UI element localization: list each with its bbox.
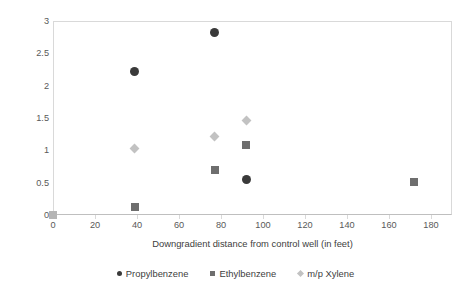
x-tick-label: 120 [290, 219, 320, 231]
y-tick-label: 1.5 [27, 113, 49, 123]
data-point-square [410, 178, 418, 186]
x-tick-label: 80 [206, 219, 236, 231]
legend-square-icon [210, 271, 215, 276]
x-tick-label: 0 [38, 219, 68, 231]
scatter-chart: δ13C difference from control well as ε 0… [0, 0, 471, 297]
legend-item-label: Propylbenzene [126, 268, 189, 279]
y-tick-label: 3 [27, 16, 49, 26]
x-tick-label: 100 [248, 219, 278, 231]
x-tick-label: 180 [416, 219, 446, 231]
y-tick-label: 1 [27, 145, 49, 155]
x-tick-label: 40 [122, 219, 152, 231]
legend-diamond-icon [297, 270, 304, 277]
legend-item[interactable]: Propylbenzene [117, 268, 189, 279]
data-point-circle [242, 175, 251, 184]
x-tick-label: 20 [80, 219, 110, 231]
data-point-square [211, 166, 219, 174]
x-tick-label: 60 [164, 219, 194, 231]
x-tick-label: 140 [332, 219, 362, 231]
data-point-square [242, 141, 250, 149]
x-tick-label: 160 [374, 219, 404, 231]
legend-item-label: Ethylbenzene [219, 268, 276, 279]
legend-item-label: m/p Xylene [307, 268, 354, 279]
x-axis-title: Downgradient distance from control well … [53, 238, 452, 249]
chart-legend: PropylbenzeneEthylbenzenem/p Xylene [0, 268, 471, 279]
x-axis-ticks: 020406080100120140160180 [0, 219, 471, 233]
legend-circle-icon [117, 271, 122, 276]
y-tick-label: 0.5 [27, 178, 49, 188]
y-tick-label: 2 [27, 81, 49, 91]
data-point-square [49, 211, 57, 219]
y-tick-label: 2.5 [27, 48, 49, 58]
plot-area [53, 21, 452, 215]
y-axis-ticks: 00.511.522.53 [22, 0, 49, 297]
data-point-square [131, 203, 139, 211]
legend-item[interactable]: m/p Xylene [298, 268, 354, 279]
legend-item[interactable]: Ethylbenzene [210, 268, 276, 279]
